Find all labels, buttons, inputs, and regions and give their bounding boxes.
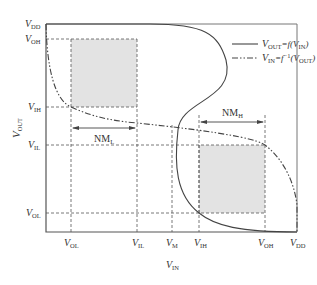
- y-tick-vih: VIH: [28, 101, 41, 113]
- y-axis-label: VOUT: [10, 118, 23, 138]
- y-tick-voh: VOH: [25, 33, 41, 45]
- nm-low-arrow: [72, 126, 136, 130]
- x-tick-vm: VM: [166, 237, 178, 249]
- nm-high-label: NMH: [222, 107, 243, 119]
- x-tick-vih: VIH: [194, 237, 207, 249]
- vtc-diagram: NML NMH VOUT=f(VIN) VIN=f−1(VOUT) VDD VO…: [0, 0, 317, 285]
- nm-low-label: NML: [94, 133, 114, 145]
- y-tick-vil: VIL: [28, 139, 40, 151]
- legend: VOUT=f(VIN) VIN=f−1(VOUT): [232, 38, 315, 64]
- legend-item-vtc: VOUT=f(VIN): [262, 38, 308, 50]
- x-axis-label: VIN: [166, 259, 179, 271]
- x-tick-vdd: VDD: [290, 237, 306, 249]
- x-tick-vol: VOL: [64, 237, 79, 249]
- y-tick-vdd: VDD: [25, 18, 41, 30]
- y-tick-vol: VOL: [26, 207, 41, 219]
- noise-margin-high-region: [199, 145, 265, 213]
- noise-margin-low-region: [71, 39, 137, 107]
- legend-item-inverse: VIN=f−1(VOUT): [262, 52, 315, 64]
- x-tick-vil: VIL: [132, 237, 144, 249]
- x-tick-voh: VOH: [258, 237, 274, 249]
- nm-high-arrow: [200, 120, 264, 124]
